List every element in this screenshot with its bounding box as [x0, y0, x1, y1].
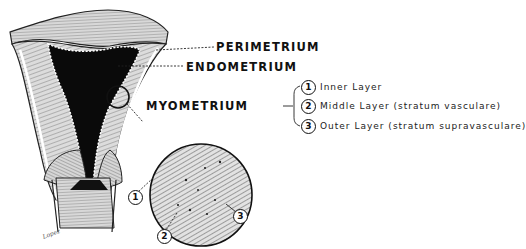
callout-1: 1 — [128, 190, 143, 205]
layer-2-label: Middle Layer (stratum vasculare) — [320, 101, 501, 111]
layer-1-number: 1 — [301, 80, 316, 95]
label-perimetrium: PERIMETRIUM — [216, 40, 320, 54]
label-myometrium: MYOMETRIUM — [146, 99, 248, 113]
magnified-myometrium — [137, 144, 252, 246]
layer-1-label: Inner Layer — [320, 82, 382, 92]
callout-2: 2 — [157, 229, 172, 244]
layer-3-number: 3 — [301, 119, 316, 134]
label-endometrium: ENDOMETRIUM — [186, 60, 297, 74]
layer-2-number: 2 — [301, 99, 316, 114]
callout-3: 3 — [233, 209, 248, 224]
layer-3-label: Outer Layer (stratum supravasculare) — [320, 121, 526, 131]
